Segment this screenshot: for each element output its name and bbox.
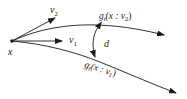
- point-label: x: [7, 46, 13, 57]
- geodesic-curve-v2: [12, 25, 164, 41]
- curve-v2-label: gt(x : v2): [99, 11, 132, 22]
- vector-v2-arrow: [12, 18, 55, 41]
- distance-label: d: [104, 38, 110, 49]
- vector-v2-label: v2: [50, 4, 58, 18]
- geodesic-diagram: x v2 v1 gt(x : v2) d gt(x : v1): [0, 0, 187, 99]
- distance-arrow: [93, 27, 98, 57]
- vector-v1-label: v1: [69, 34, 77, 48]
